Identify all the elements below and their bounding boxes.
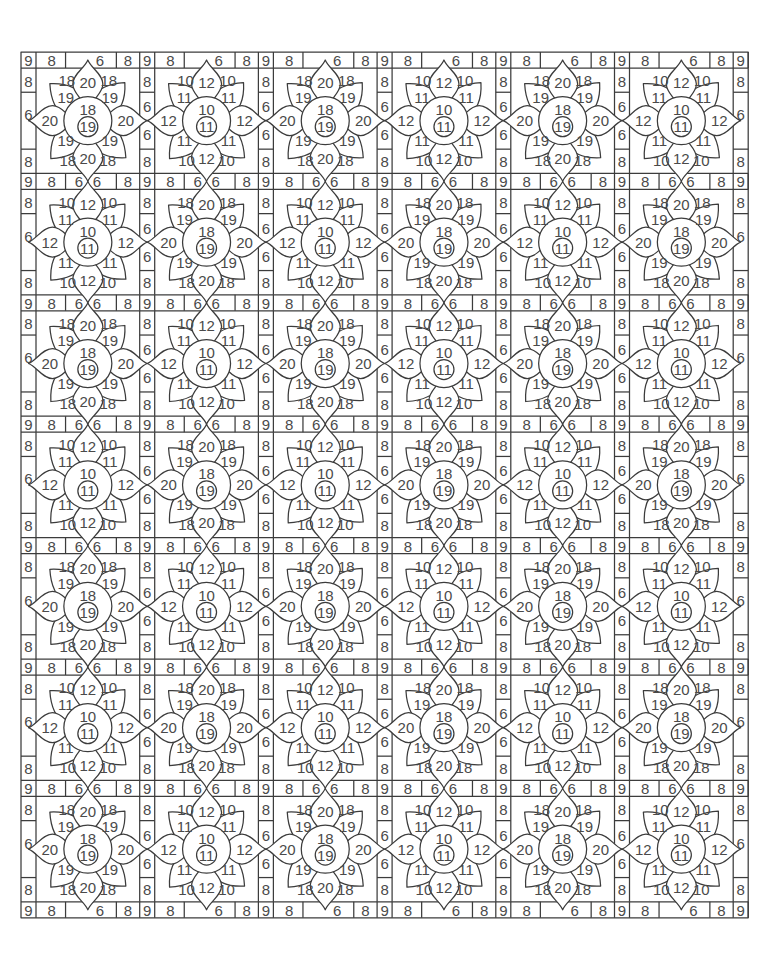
band-corner-number: 9 — [380, 173, 388, 190]
lobe-ne-number: 11 — [696, 89, 712, 106]
petal-south-number: 20 — [317, 636, 334, 653]
column-end-number: 8 — [737, 760, 745, 777]
band-corner-number: 9 — [262, 416, 270, 433]
band-middle-number: 6 — [333, 902, 341, 919]
corner-ne-number: 18 — [575, 315, 592, 332]
column-end-number: 8 — [499, 437, 507, 454]
band-side-number: 8 — [361, 295, 369, 312]
petal-west-number: 20 — [516, 112, 533, 129]
column-middle-number: 6 — [499, 584, 507, 601]
lobe-ne-number: 11 — [696, 332, 712, 349]
band-corner-number: 9 — [24, 416, 32, 433]
corner-se-number: 10 — [337, 274, 354, 291]
corner-sw-number: 10 — [297, 759, 314, 776]
column-end-number: 8 — [618, 881, 626, 898]
band-corner-number: 9 — [380, 780, 388, 797]
lobe-sw-number: 19 — [176, 496, 193, 513]
center-inner-number: 11 — [555, 725, 571, 742]
petal-east-number: 20 — [118, 841, 135, 858]
petal-north-number: 20 — [317, 803, 334, 820]
petal-east-number: 12 — [474, 841, 491, 858]
column-end-number: 8 — [737, 680, 745, 697]
band-corner-number: 9 — [618, 173, 626, 190]
petal-north-number: 12 — [673, 803, 690, 820]
band-side-number: 8 — [243, 902, 251, 919]
corner-se-number: 18 — [693, 516, 710, 533]
petal-north-number: 20 — [317, 560, 334, 577]
petal-north-number: 12 — [80, 196, 97, 213]
lobe-ne-number: 11 — [339, 696, 355, 713]
corner-sw-number: 10 — [60, 516, 77, 533]
corner-sw-number: 18 — [653, 516, 670, 533]
corner-se-number: 10 — [574, 759, 591, 776]
petal-west-number: 20 — [160, 719, 177, 736]
lobe-ne-number: 19 — [695, 211, 712, 228]
center-top-number: 18 — [436, 708, 453, 725]
corner-sw-number: 18 — [416, 516, 433, 533]
corner-se-number: 18 — [693, 274, 710, 291]
band-side-number: 8 — [166, 780, 174, 797]
band-side-number: 8 — [48, 902, 56, 919]
column-middle-number: 6 — [262, 490, 270, 507]
corner-nw-number: 10 — [59, 679, 76, 696]
corner-sw-number: 10 — [60, 274, 77, 291]
column-middle-number: 6 — [143, 220, 151, 237]
band-corner-number: 9 — [618, 416, 626, 433]
lobe-sw-number: 11 — [177, 132, 193, 149]
band-side-number: 8 — [717, 416, 725, 433]
column-middle-number: 6 — [380, 612, 388, 629]
column-end-number: 8 — [618, 315, 626, 332]
petal-west-number: 20 — [279, 355, 296, 372]
corner-ne-number: 10 — [457, 801, 474, 818]
corner-ne-number: 18 — [575, 72, 592, 89]
column-end-number: 8 — [618, 194, 626, 211]
column-middle-number: 6 — [499, 827, 507, 844]
corner-ne-number: 10 — [694, 72, 711, 89]
petal-east-number: 12 — [474, 355, 491, 372]
center-inner-number: 19 — [554, 847, 571, 864]
column-end-number: 8 — [380, 73, 388, 90]
band-side-number: 8 — [361, 902, 369, 919]
band-corner-number: 9 — [380, 538, 388, 555]
column-middle-number: 6 — [262, 733, 270, 750]
band-middle-number: 6 — [668, 416, 676, 433]
band-middle-number: 6 — [686, 780, 694, 797]
center-top-number: 10 — [436, 344, 453, 361]
corner-se-number: 10 — [456, 152, 473, 169]
lobe-sw-number: 11 — [533, 254, 549, 271]
petal-west-number: 12 — [279, 476, 296, 493]
column-end-number: 8 — [262, 153, 270, 170]
lobe-nw-number: 11 — [295, 453, 311, 470]
lobe-se-number: 11 — [102, 254, 118, 271]
column-middle-number: 6 — [499, 733, 507, 750]
petal-south-number: 20 — [554, 879, 571, 896]
petal-north-number: 20 — [198, 438, 215, 455]
column-middle-number: 6 — [262, 705, 270, 722]
column-end-number: 8 — [24, 517, 32, 534]
lobe-se-number: 19 — [576, 375, 593, 392]
petal-north-number: 20 — [198, 196, 215, 213]
band-corner-number: 9 — [24, 902, 32, 919]
column-middle-number: 6 — [143, 369, 151, 386]
column-middle-number: 6 — [143, 490, 151, 507]
center-inner-number: 19 — [80, 847, 97, 864]
petal-west-number: 20 — [279, 841, 296, 858]
band-side-number: 8 — [480, 295, 488, 312]
corner-sw-number: 18 — [178, 274, 195, 291]
center-top-number: 10 — [436, 587, 453, 604]
band-side-number: 8 — [124, 659, 132, 676]
lobe-se-number: 19 — [576, 132, 593, 149]
lobe-sw-number: 19 — [58, 132, 75, 149]
column-middle-number: 6 — [618, 733, 626, 750]
petal-south-number: 20 — [554, 393, 571, 410]
band-side-number: 8 — [480, 902, 488, 919]
lobe-se-number: 11 — [102, 496, 118, 513]
band-side-number: 8 — [124, 52, 132, 69]
petal-west-number: 20 — [398, 719, 415, 736]
corner-ne-number: 18 — [101, 72, 118, 89]
column-middle-number: 6 — [262, 98, 270, 115]
corner-se-number: 18 — [100, 152, 117, 169]
corner-se-number: 10 — [100, 516, 117, 533]
corner-ne-number: 10 — [338, 194, 355, 211]
band-corner-number: 9 — [143, 538, 151, 555]
